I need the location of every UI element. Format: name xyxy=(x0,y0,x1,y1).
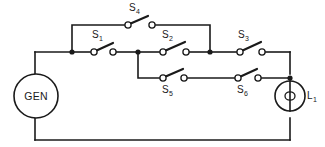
circuit-schematic-canvas: S 4 S 1 S 2 S 3 xyxy=(0,0,325,147)
junction-dot-node-c xyxy=(207,49,212,54)
switch-s4[interactable]: S 4 xyxy=(125,2,155,28)
switch-s4-label-subscript: 4 xyxy=(136,8,140,15)
switch-s5-label: S xyxy=(162,84,169,95)
switch-s3-label: S xyxy=(238,29,245,40)
switch-s4-blade[interactable] xyxy=(130,16,149,24)
switch-s5-label-subscript: 5 xyxy=(169,90,173,97)
switch-s1-left-terminal[interactable] xyxy=(91,49,97,55)
switch-s3[interactable]: S 3 xyxy=(237,29,265,55)
switch-s6-right-terminal[interactable] xyxy=(255,75,261,81)
switch-s6-label-subscript: 6 xyxy=(244,90,248,97)
outer-loop-wires xyxy=(35,52,290,140)
generator-symbol: GEN xyxy=(14,74,58,118)
switch-s6-left-terminal[interactable] xyxy=(235,75,241,81)
lower-bypass-branch-wires xyxy=(138,52,290,78)
switch-s6[interactable]: S 6 xyxy=(235,69,261,97)
switch-s2[interactable]: S 2 xyxy=(160,29,189,55)
switch-s5-left-terminal[interactable] xyxy=(160,75,166,81)
junction-dot-node-b xyxy=(135,49,140,54)
switch-s2-left-terminal[interactable] xyxy=(160,49,166,55)
switch-s1-right-terminal[interactable] xyxy=(110,49,116,55)
lamp-label-subscript: 1 xyxy=(313,96,317,103)
switch-s4-left-terminal[interactable] xyxy=(125,22,131,28)
junction-dot-node-d xyxy=(287,75,292,80)
generator-label: GEN xyxy=(24,90,48,102)
switch-s5-right-terminal[interactable] xyxy=(181,75,187,81)
circuit-diagram: S 4 S 1 S 2 S 3 xyxy=(0,0,325,147)
lamp-symbol: L 1 xyxy=(275,81,317,111)
switch-s3-blade[interactable] xyxy=(242,42,262,51)
switch-s3-left-terminal[interactable] xyxy=(237,49,243,55)
switch-s4-label: S xyxy=(129,2,136,13)
switch-s5[interactable]: S 5 xyxy=(160,69,187,97)
switch-s2-blade[interactable] xyxy=(165,42,186,51)
junction-dot-node-a xyxy=(69,49,74,54)
switch-s1-label: S xyxy=(92,29,99,40)
switch-s2-label-subscript: 2 xyxy=(169,35,173,42)
switch-s2-label: S xyxy=(162,29,169,40)
switch-s3-right-terminal[interactable] xyxy=(259,49,265,55)
wire-s4-to-nodeC xyxy=(152,25,210,52)
switch-s6-label: S xyxy=(237,84,244,95)
switch-s5-blade[interactable] xyxy=(165,69,184,77)
switch-s1[interactable]: S 1 xyxy=(91,29,116,55)
wire-nodeB-down-to-s5 xyxy=(138,52,163,78)
switch-s2-right-terminal[interactable] xyxy=(183,49,189,55)
switch-s4-right-terminal[interactable] xyxy=(149,22,155,28)
switch-s6-blade[interactable] xyxy=(240,69,258,77)
switch-s3-label-subscript: 3 xyxy=(245,35,249,42)
switch-s1-label-subscript: 1 xyxy=(99,35,103,42)
